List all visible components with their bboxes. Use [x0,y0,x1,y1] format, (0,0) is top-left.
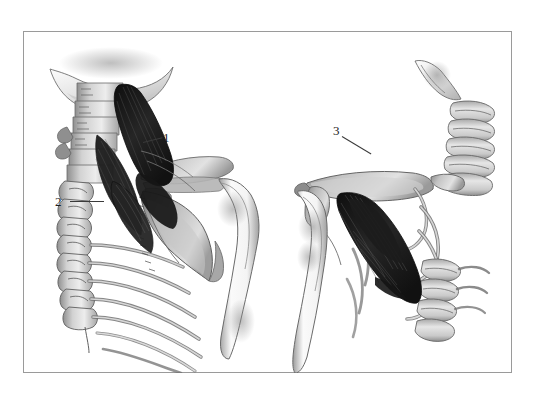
figure-root: 1 2 3 [0,0,534,404]
mandible-styloid [415,60,461,99]
callout-label-2: 2 [55,195,62,208]
humerus-anterior [293,191,328,373]
anatomy-artwork [23,31,512,373]
view-posterior-left [50,47,259,373]
thoracic-spine [57,181,98,353]
callout-label-3: 3 [333,124,340,137]
thoracic-vertebrae-anterior [415,259,489,341]
ribs-posterior [89,245,201,373]
callout-label-1: 1 [163,131,170,144]
view-anterior-right [293,60,495,373]
